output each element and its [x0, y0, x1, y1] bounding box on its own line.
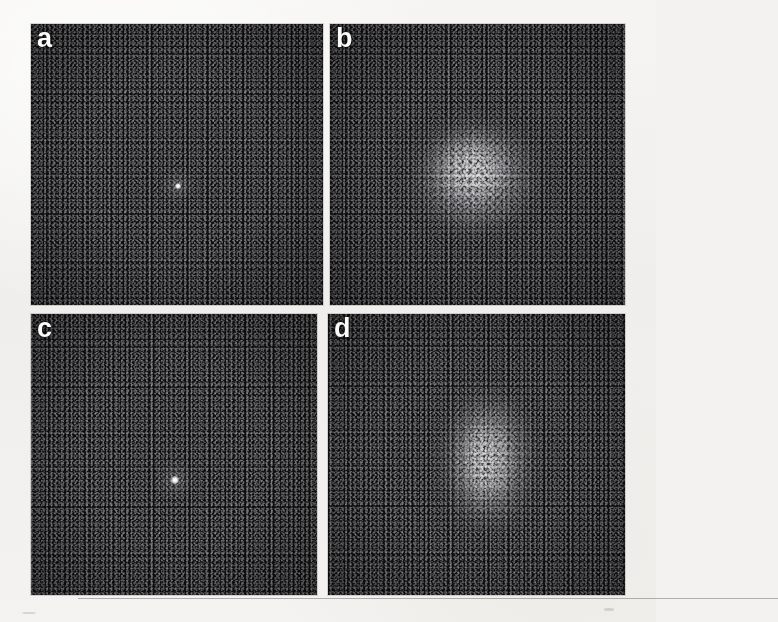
diffuse-speckle-cloud-inner — [426, 128, 518, 212]
noise-texture-overlay — [31, 24, 323, 305]
panel-d[interactable]: d — [328, 314, 625, 595]
panel-label-b: b — [336, 25, 353, 52]
central-bragg-spot — [175, 183, 181, 189]
panel-a[interactable]: a — [31, 24, 323, 305]
central-bragg-spot — [171, 476, 179, 484]
panel-label-c: c — [37, 315, 52, 342]
noise-texture-overlay — [31, 314, 317, 595]
panel-c[interactable]: c — [31, 314, 317, 595]
panel-b[interactable]: b — [330, 24, 625, 305]
panel-label-d: d — [334, 315, 351, 342]
panel-label-a: a — [37, 25, 52, 52]
diffuse-speckle-cloud-inner — [450, 405, 520, 515]
